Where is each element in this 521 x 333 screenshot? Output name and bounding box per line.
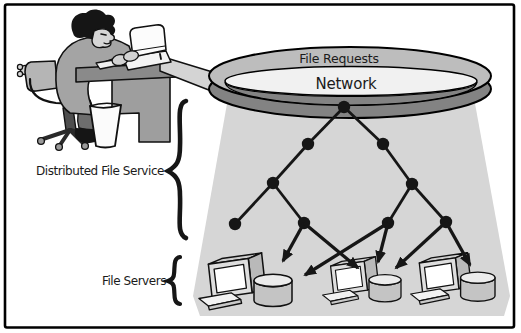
tree-node-n-r1 bbox=[377, 138, 389, 150]
tree-node-n-l1 bbox=[302, 138, 314, 150]
tree-node-root bbox=[338, 101, 350, 113]
tree-node-leaf-a bbox=[229, 218, 241, 230]
file-requests-label: File Requests bbox=[299, 51, 379, 66]
network-label: Network bbox=[315, 75, 377, 93]
figure: File Requests Network Distributed File S… bbox=[0, 0, 521, 333]
file-servers-label: File Servers bbox=[102, 274, 166, 288]
diagram-canvas: File Requests Network Distributed File S… bbox=[0, 0, 521, 333]
distributed-file-service-label: Distributed File Service bbox=[36, 164, 164, 178]
tree-node-n-l2 bbox=[267, 177, 279, 189]
tree-node-n-r2 bbox=[406, 178, 418, 190]
waste-basket bbox=[90, 103, 121, 147]
